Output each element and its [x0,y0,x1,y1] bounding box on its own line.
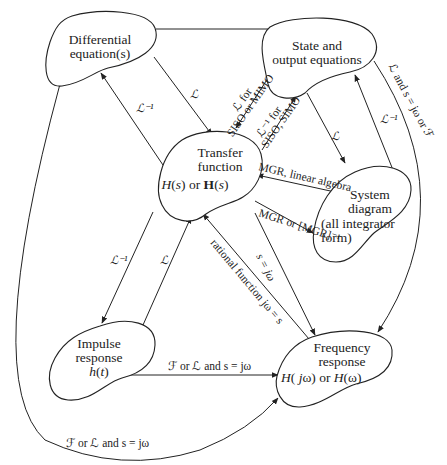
label-imp-to-tf: ℒ [160,254,169,266]
label-freq-to-tf: rational function jω = s [208,237,287,327]
transfer-label-1: Transfer [197,145,243,160]
frequency-label-3: H( jω) or H(ω) [280,370,361,385]
impulse-label-3: h(t) [89,364,109,379]
frequency-label-2: response [318,354,365,369]
transfer-label-2: function [198,159,243,174]
label-sys-to-tf: MGR, linear algebra [257,160,352,194]
impulse-label-2: response [75,350,122,365]
label-state-to-sys: ℒ [331,130,340,142]
edge-tf-to-diff [101,73,165,168]
edge-diff-to-tf [154,57,212,135]
frequency-label-1: Frequency [314,340,371,355]
label-tf-to-imp: ℒ⁻¹ [110,254,128,266]
state-label-2: output equations [272,52,362,67]
impulse-label-1: Impulse [77,336,121,351]
state-label-1: State and [292,38,342,53]
differential-label-2: equation(s) [70,46,131,61]
label-sys-to-state: ℒ⁻¹ [380,113,398,125]
label-tf-to-diff: ℒ⁻¹ [136,102,154,114]
system-label-2: diagram [348,201,393,216]
label-state-to-freq: ℒ and s = jω or ℱ [385,61,436,141]
label-tf-to-freq: s = jω [253,251,278,283]
differential-label-1: Differential [69,32,132,47]
edge-tf-to-imp [102,212,153,323]
edge-imp-to-tf [143,217,191,325]
transfer-label-3: H(s) or H(s) [161,177,229,192]
system-label-1: System [350,187,390,202]
label-diff-to-tf: ℒ [190,88,199,100]
edge-freq-to-tf [203,214,309,339]
transform-relationship-diagram: Differential equation(s) State and outpu… [0,0,447,465]
edge-state-to-sys [307,93,345,163]
label-imp-to-freq: ℱ or ℒ and s = jω [168,360,252,373]
label-diff-to-freq: ℱ or ℒ and s = jω [66,437,150,450]
